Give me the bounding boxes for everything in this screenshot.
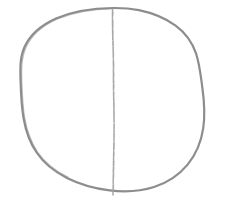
sketch-figure: [0, 0, 227, 210]
drawing-canvas: A freehand pencil sketch of a roughly ci…: [0, 0, 227, 210]
